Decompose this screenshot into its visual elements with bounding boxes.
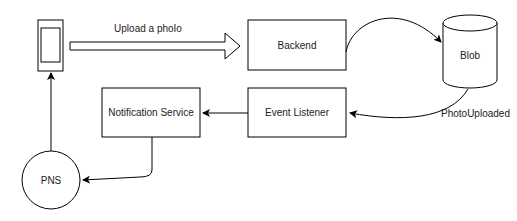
- backend-node: Backend: [248, 20, 346, 70]
- cylinder-top: [443, 15, 497, 31]
- photo-uploaded-label: PhotoUploaded: [441, 108, 510, 119]
- phone-node: [38, 20, 63, 71]
- blob-node: Blob: [443, 15, 497, 88]
- blob-label: Blob: [460, 50, 480, 61]
- upload-label: Upload a phoIo: [114, 23, 182, 34]
- event-listener-label: Event Listener: [265, 107, 330, 118]
- phone-screen: [41, 28, 60, 62]
- pns-node: PNS: [22, 151, 80, 209]
- notification-service-label: Notification Service: [108, 107, 194, 118]
- event-listener-node: Event Listener: [248, 88, 346, 137]
- backend-to-blob-edge: [346, 18, 441, 52]
- hollow-arrow-icon: [70, 33, 240, 59]
- backend-label: Backend: [278, 40, 317, 51]
- architecture-diagram: Upload a phoIo Backend Blob PhotoUploade…: [0, 0, 517, 221]
- notification-to-pns-edge: [83, 137, 152, 180]
- upload-edge: Upload a phoIo: [70, 23, 240, 59]
- pns-label: PNS: [41, 175, 62, 186]
- notification-service-node: Notification Service: [102, 88, 200, 137]
